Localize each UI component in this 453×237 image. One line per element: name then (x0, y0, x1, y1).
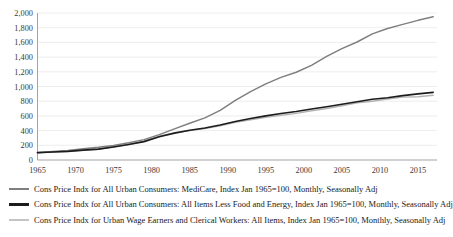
x-tick-label: 2005 (334, 166, 351, 175)
y-tick-label: 0 (29, 156, 33, 165)
x-tick-label: 1985 (181, 166, 198, 175)
legend-item-cpiw[interactable]: Cons Price Indx for Urban Wage Earners a… (0, 212, 445, 228)
y-tick-label: 1,000 (14, 83, 33, 92)
series-line-2 (38, 95, 434, 152)
legend-swatch-core-cpi (9, 200, 29, 209)
y-tick-label: 600 (21, 112, 33, 121)
x-tick-label: 2000 (296, 166, 313, 175)
legend-swatch-cpiw (9, 215, 29, 224)
series-line-0 (38, 17, 434, 153)
legend-label-medicare: Cons Price Indx for All Urban Consumers:… (34, 184, 378, 194)
y-tick-label: 200 (21, 141, 33, 150)
chart-canvas: 02004006008001,0001,2001,4001,6001,8002,… (0, 0, 445, 178)
legend-label-cpiw: Cons Price Indx for Urban Wage Earners a… (34, 215, 445, 225)
legend-item-core-cpi[interactable]: Cons Price Indx for All Urban Consumers:… (0, 197, 445, 213)
x-tick-label: 2010 (372, 166, 389, 175)
x-tick-label: 1970 (67, 166, 84, 175)
y-axis-tick-labels: 02004006008001,0001,2001,4001,6001,8002,… (14, 9, 33, 165)
y-tick-label: 1,200 (14, 68, 33, 77)
x-tick-label: 1975 (105, 166, 122, 175)
chart-legend: Cons Price Indx for All Urban Consumers:… (0, 179, 445, 237)
x-tick-label: 1990 (219, 166, 236, 175)
x-tick-label: 1995 (257, 166, 274, 175)
x-axis-tick-labels: 1965197019751980198519901995200020052010… (29, 166, 426, 175)
legend-label-core-cpi: Cons Price Indx for All Urban Consumers:… (34, 199, 453, 209)
x-tick-label: 1980 (143, 166, 160, 175)
y-tick-label: 2,000 (14, 9, 33, 18)
x-tick-label: 2015 (410, 166, 427, 175)
data-series (38, 17, 434, 153)
y-tick-label: 800 (21, 97, 33, 106)
y-tick-label: 1,600 (14, 38, 33, 47)
y-tick-label: 1,400 (14, 53, 33, 62)
x-tick-label: 1965 (29, 166, 46, 175)
y-tick-label: 1,800 (14, 24, 33, 33)
plot-area: 02004006008001,0001,2001,4001,6001,8002,… (0, 0, 445, 178)
legend-item-medicare[interactable]: Cons Price Indx for All Urban Consumers:… (0, 181, 445, 197)
legend-swatch-medicare (9, 184, 29, 193)
y-tick-label: 400 (21, 127, 33, 136)
